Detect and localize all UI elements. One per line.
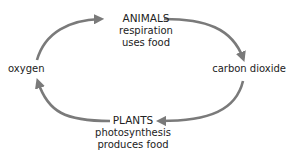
plants-title: PLANTS [83, 114, 183, 127]
animals-title: ANIMALS [96, 12, 196, 25]
node-oxygen: oxygen [8, 63, 44, 76]
node-animals: ANIMALS respiration uses food [96, 12, 196, 50]
node-plants: PLANTS photosynthesis produces food [83, 114, 183, 152]
arrow-oxygen-to-animals [37, 19, 100, 60]
plants-line-photosynthesis: photosynthesis [83, 127, 183, 140]
node-carbon-dioxide: carbon dioxide [212, 63, 286, 76]
animals-line-uses-food: uses food [96, 37, 196, 50]
carbon-dioxide-label: carbon dioxide [212, 63, 286, 74]
plants-line-produces-food: produces food [83, 139, 183, 152]
animals-line-respiration: respiration [96, 25, 196, 38]
oxygen-label: oxygen [8, 63, 44, 74]
